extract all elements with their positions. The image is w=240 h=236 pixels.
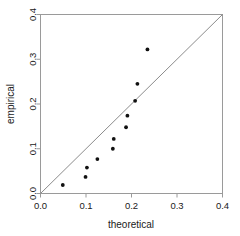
y-axis-tick-labels: 0.00.10.20.30.4 [27, 8, 38, 200]
data-point [85, 166, 89, 170]
x-axis-ticks [41, 194, 223, 198]
x-tick-label: 0.4 [216, 200, 229, 211]
x-tick-label: 0.0 [34, 200, 47, 211]
y-tick-label: 0.0 [27, 187, 38, 200]
data-point [111, 147, 115, 151]
data-point [126, 114, 130, 118]
data-point [61, 183, 65, 187]
data-points [61, 48, 149, 187]
y-tick-label: 0.2 [27, 97, 38, 110]
x-tick-label: 0.3 [170, 200, 183, 211]
data-point [112, 137, 116, 141]
identity-line [41, 15, 223, 194]
x-axis-tick-labels: 0.00.10.20.30.4 [34, 200, 229, 211]
data-point [133, 99, 137, 103]
x-tick-label: 0.2 [125, 200, 138, 211]
y-tick-label: 0.1 [27, 142, 38, 155]
data-point [84, 175, 88, 179]
x-tick-label: 0.1 [79, 200, 92, 211]
x-axis-title: theoretical [108, 219, 154, 230]
data-point [146, 48, 150, 52]
y-tick-label: 0.3 [27, 53, 38, 66]
identity-reference-line [41, 15, 223, 194]
qq-plot-canvas: 0.00.10.20.30.4 0.00.10.20.30.4 theoreti… [0, 0, 240, 236]
data-point [124, 125, 128, 129]
y-axis-title: empirical [5, 84, 16, 124]
y-tick-label: 0.4 [27, 8, 38, 21]
data-point [136, 82, 140, 86]
qq-plot: 0.00.10.20.30.4 0.00.10.20.30.4 theoreti… [0, 0, 240, 236]
data-point [95, 157, 99, 161]
